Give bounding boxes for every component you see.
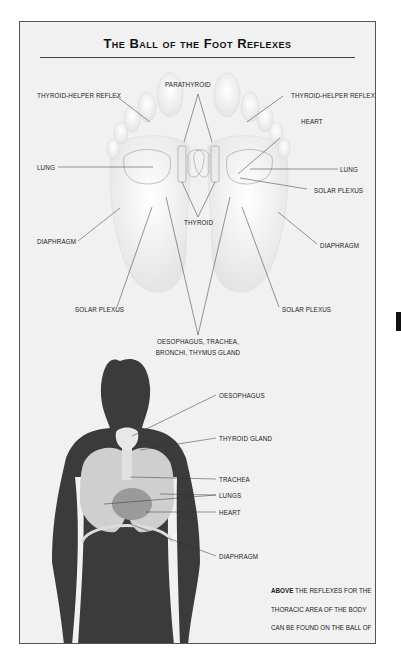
caption: ABOVE THE REFLEXES FOR THE THORACIC AREA… (271, 582, 376, 644)
illustration (20, 22, 376, 644)
label-thyroid: THYROID (184, 219, 213, 226)
label-solar-plexus-right-upper: SOLAR PLEXUS (314, 187, 363, 194)
label-solar-plexus-right: SOLAR PLEXUS (282, 306, 331, 313)
label-oesophagus-group-line1: OESOPHAGUS, TRACHEA, (148, 338, 248, 345)
label-parathyroid: PARATHYROID (165, 81, 211, 88)
label-lungs: LUNGS (219, 492, 241, 499)
label-solar-plexus-left: SOLAR PLEXUS (75, 306, 124, 313)
label-lung-right: LUNG (340, 166, 358, 173)
label-diaphragm-left: DIAPHRAGM (37, 238, 76, 245)
label-diaphragm-right: DIAPHRAGM (320, 242, 359, 249)
caption-text: THE REFLEXES FOR THE THORACIC AREA OF TH… (271, 587, 372, 644)
label-heart-foot: HEART (301, 118, 323, 125)
foot-leader-lines (58, 94, 338, 335)
label-thyroid-helper-left: THYROID-HELPER REFLEX (37, 92, 121, 99)
label-thyroid-helper-right: THYROID-HELPER REFLEX (291, 92, 375, 99)
label-oesophagus-group-line2: BRONCHI, THYMUS GLAND (148, 349, 248, 356)
left-foot-icon (107, 73, 190, 292)
label-diaphragm: DIAPHRAGM (219, 553, 258, 560)
diagram-panel: The Ball of the Foot Reflexes (19, 21, 376, 644)
label-trachea: TRACHEA (219, 476, 250, 483)
right-foot-icon (208, 73, 290, 292)
label-oesophagus: OESOPHAGUS (219, 392, 265, 399)
caption-bold: ABOVE (271, 587, 293, 594)
label-thyroid-gland: THYROID GLAND (219, 435, 272, 442)
page-edge-marker (396, 312, 401, 331)
human-body-icon (52, 359, 200, 644)
label-heart: HEART (219, 509, 241, 516)
label-lung-left: LUNG (37, 164, 55, 171)
